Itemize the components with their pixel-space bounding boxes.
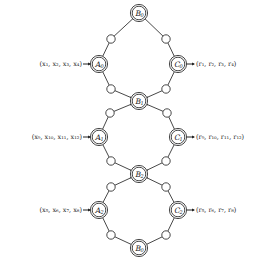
relay-node-circle	[162, 157, 170, 165]
relay-nodes	[106, 35, 171, 239]
node-c0: C0	[169, 55, 186, 72]
output-tuple-label: (r₁, r₂, r₃, r₄)	[196, 60, 237, 68]
node-b1: B1	[130, 92, 147, 109]
relay-node-circle	[163, 109, 171, 117]
node-subscript: 1	[141, 100, 144, 106]
relay-node-circle	[162, 35, 170, 43]
node-a1: A1	[90, 128, 107, 145]
relay-node-circle	[107, 35, 115, 43]
main-nodes: B0A0C0B1A1C1B2A2C2B0	[90, 4, 186, 256]
node-subscript: 2	[100, 209, 104, 215]
io-arrows: (x₁, x₂, x₃, x₄)(x₉, x₁₀, x₁₁, x₁₂)(x₅, …	[32, 60, 245, 214]
input-tuple-label: (x₁, x₂, x₃, x₄)	[39, 60, 82, 68]
node-subscript: 2	[140, 173, 144, 179]
node-b2: B2	[130, 165, 147, 182]
node-b0_bottom: B0	[130, 239, 147, 256]
output-tuple-label: (r₉, r₁₀, r₁₁, r₁₂)	[196, 133, 245, 141]
relay-node-circle	[106, 109, 114, 117]
arrowhead-icon	[192, 208, 195, 211]
node-subscript: 1	[180, 136, 183, 142]
output-tuple-label: (r₅, r₆, r₇, r₈)	[196, 206, 237, 214]
node-b0_top: B0	[130, 4, 147, 21]
node-c1: C1	[169, 128, 186, 145]
ring-network-diagram: (x₁, x₂, x₃, x₄)(x₉, x₁₀, x₁₁, x₁₂)(x₅, …	[0, 0, 273, 267]
relay-node-circle	[162, 231, 170, 239]
arrowhead-icon	[192, 62, 195, 65]
relay-node-circle	[107, 231, 115, 239]
relay-node-circle	[107, 85, 115, 93]
node-subscript: 2	[179, 209, 183, 215]
node-a2: A2	[90, 201, 107, 218]
node-c2: C2	[169, 201, 186, 218]
arrowhead-icon	[192, 135, 195, 138]
relay-node-circle	[162, 85, 170, 93]
input-tuple-label: (x₉, x₁₀, x₁₁, x₁₂)	[32, 133, 83, 141]
node-a0: A0	[90, 55, 107, 72]
node-subscript: 1	[101, 136, 104, 142]
input-tuple-label: (x₅, x₆, x₇, x₈)	[39, 206, 82, 214]
relay-node-circle	[107, 183, 115, 191]
relay-node-circle	[107, 157, 115, 165]
relay-node-circle	[162, 183, 170, 191]
edges	[99, 13, 178, 248]
